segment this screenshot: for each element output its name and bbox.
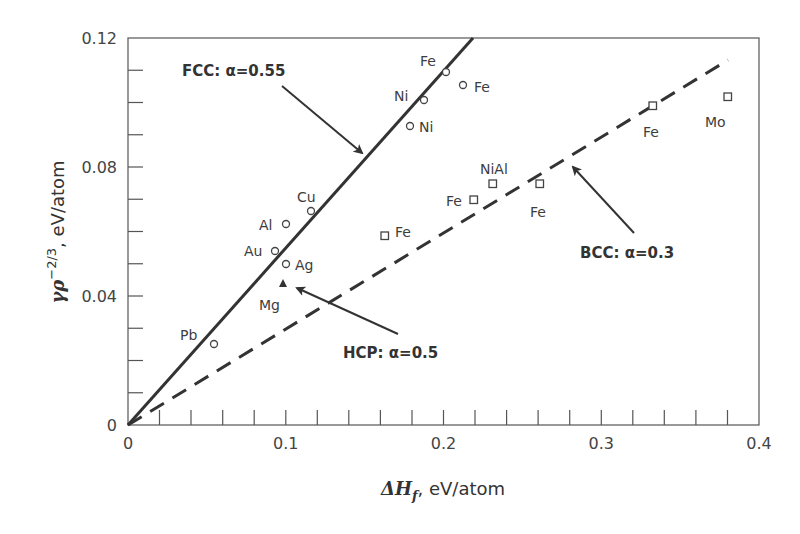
x-tick-label: 0.3 bbox=[589, 434, 614, 453]
point-pb bbox=[211, 341, 218, 348]
point-au bbox=[272, 248, 279, 255]
point-fe bbox=[381, 232, 389, 240]
bcc-points bbox=[381, 93, 732, 240]
fcc-annotation: FCC: α=0.55 bbox=[182, 62, 285, 80]
point-ni bbox=[407, 123, 414, 130]
label-fe: Fe bbox=[530, 204, 546, 220]
x-tick-labels: 0 0.1 0.2 0.3 0.4 bbox=[123, 434, 772, 453]
y-tick-label: 0 bbox=[107, 416, 117, 435]
x-tick-label: 0.1 bbox=[273, 434, 298, 453]
label-fe: Fe bbox=[420, 53, 436, 69]
point-mo bbox=[724, 93, 732, 101]
chart: 0 0.04 0.08 0.12 0 0.1 0.2 0.3 0.4 ΔHf, … bbox=[0, 0, 800, 534]
x-tick-label: 0 bbox=[123, 434, 133, 453]
point-ag bbox=[283, 261, 290, 268]
fcc-arrow bbox=[282, 86, 362, 153]
label-mg: Mg bbox=[259, 297, 280, 313]
y-tick-label: 0.08 bbox=[81, 158, 117, 177]
y-axis-ticks bbox=[128, 70, 143, 393]
bcc-arrow bbox=[573, 167, 634, 233]
label-fe: Fe bbox=[474, 79, 490, 95]
label-pb: Pb bbox=[180, 327, 197, 343]
point-ni bbox=[421, 97, 428, 104]
x-axis-title: ΔHf, eV/atom bbox=[380, 478, 505, 503]
point-fe bbox=[460, 82, 467, 89]
y-tick-labels: 0 0.04 0.08 0.12 bbox=[81, 29, 117, 435]
label-ag: Ag bbox=[295, 257, 313, 273]
fcc-points bbox=[211, 69, 467, 348]
label-al: Al bbox=[259, 217, 272, 233]
point-mg bbox=[279, 279, 287, 287]
point-cu bbox=[308, 208, 315, 215]
x-tick-label: 0.2 bbox=[431, 434, 456, 453]
bcc-annotation: BCC: α=0.3 bbox=[580, 244, 674, 262]
label-mo: Mo bbox=[705, 114, 726, 130]
point-fe bbox=[536, 180, 544, 188]
hcp-arrow bbox=[297, 288, 398, 334]
bcc-fit-line bbox=[128, 60, 728, 425]
point-al bbox=[283, 221, 290, 228]
label-au: Au bbox=[244, 243, 262, 259]
y-tick-label: 0.12 bbox=[81, 29, 117, 48]
point-fe bbox=[443, 69, 450, 76]
label-ni: Ni bbox=[419, 119, 433, 135]
x-axis-ticks bbox=[160, 410, 728, 425]
x-tick-label: 0.4 bbox=[746, 434, 771, 453]
hcp-annotation: HCP: α=0.5 bbox=[343, 344, 438, 362]
point-nial bbox=[489, 180, 497, 188]
label-ni: Ni bbox=[394, 88, 408, 104]
y-axis-title: γρ−2/3, eV/atom bbox=[44, 160, 68, 303]
label-fe: Fe bbox=[446, 193, 462, 209]
label-cu: Cu bbox=[297, 189, 316, 205]
point-labels: Pb Au Ag Al Cu Mg Ni Ni Fe Fe Fe Fe NiAl… bbox=[180, 53, 726, 343]
label-fe: Fe bbox=[643, 124, 659, 140]
label-fe: Fe bbox=[395, 224, 411, 240]
point-fe bbox=[470, 196, 478, 204]
fcc-fit-line bbox=[128, 38, 473, 425]
y-tick-label: 0.04 bbox=[81, 287, 117, 306]
point-fe bbox=[649, 102, 657, 110]
label-nial: NiAl bbox=[480, 161, 508, 177]
